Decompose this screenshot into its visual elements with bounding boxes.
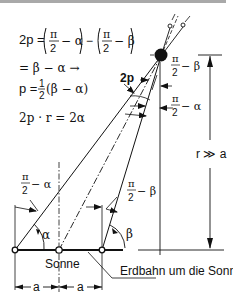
eq2: = β − α → (19, 61, 79, 75)
parallax-label: 2p (120, 71, 134, 85)
left-minus-alpha: − α (31, 178, 52, 191)
right-minus-alpha: − α (181, 100, 202, 113)
orbit-leader (88, 252, 112, 278)
earth-left-icon (12, 247, 18, 253)
eq4: 2p · r = 2α (19, 111, 85, 125)
right-two: 2 (172, 107, 178, 118)
distance-label: r ≫ a (196, 147, 227, 161)
a-label-left: a (33, 280, 40, 294)
sun-label: Sonne (45, 257, 80, 271)
eq1-two-b: 2 (103, 42, 109, 54)
parallax-diagram: 2p = π 2 − α − π 2 − β = β − α → p = 1 2… (0, 0, 233, 306)
orbit-label: Erdbahn um die Sonne (120, 264, 233, 278)
top-two: 2 (172, 67, 178, 78)
eq3-rhs: (β − α) (46, 82, 88, 96)
left-two: 2 (22, 185, 28, 196)
earth-right-icon (99, 247, 105, 253)
star-icon (155, 49, 168, 62)
eq1-minus-alpha: − α (61, 34, 83, 48)
right-pi: π (172, 93, 179, 104)
distance-dimension: r ≫ a (196, 55, 227, 249)
eq1-minus-beta: − β (114, 34, 135, 48)
top-pi: π (172, 53, 179, 64)
beta-label: β (126, 227, 133, 241)
eq1-lhs: 2p = (19, 32, 45, 47)
sight-line-right (102, 56, 161, 250)
left-pi: π (22, 171, 29, 182)
baseline-dimension: a a (15, 280, 102, 294)
eq1-minus: − (86, 34, 93, 48)
sun-icon (56, 247, 62, 253)
eq1-pi-b: π (103, 28, 110, 41)
eq1-two-a: 2 (50, 42, 56, 54)
eq3-lhs: p = (19, 81, 37, 96)
top-minus-beta: − β (181, 60, 200, 73)
eq3-one: 1 (39, 78, 45, 89)
mid-two: 2 (128, 192, 134, 203)
mid-pi: π (128, 178, 135, 189)
eq3-two: 2 (39, 90, 45, 101)
a-label-right: a (77, 280, 84, 294)
mid-minus-beta: − β (137, 185, 156, 198)
alpha-label: α (42, 228, 50, 242)
eq1-pi-a: π (50, 28, 57, 41)
equation-block: 2p = π 2 − α − π 2 − β = β − α → p = 1 2… (19, 28, 135, 125)
